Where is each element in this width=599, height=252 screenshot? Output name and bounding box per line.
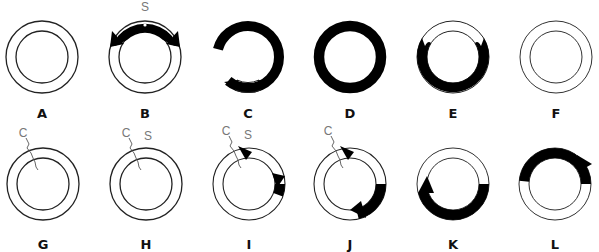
panel-c: C — [217, 26, 279, 121]
filled-arc — [422, 153, 484, 215]
inner-ring — [17, 158, 69, 210]
panel-f: F — [520, 21, 592, 121]
outer-ring — [7, 148, 79, 220]
nick-squiggle-icon — [229, 136, 241, 168]
s-label: S — [144, 129, 152, 143]
inner-ring — [529, 158, 581, 210]
origin-dot — [143, 23, 146, 26]
panel-k: K — [417, 148, 489, 252]
panel-label-l: L — [551, 237, 559, 252]
filled-ring — [319, 26, 381, 88]
c-label: C — [324, 124, 333, 138]
c-label: C — [222, 124, 231, 138]
panel-label-c: C — [243, 106, 253, 121]
arrowhead-icon — [418, 176, 434, 193]
outer-ring — [417, 21, 489, 93]
outer-ring — [6, 21, 78, 93]
s-label: S — [141, 0, 149, 14]
inner-ring — [223, 158, 275, 210]
filled-arc — [218, 153, 280, 215]
s-label: S — [244, 128, 252, 142]
c-label: C — [122, 126, 131, 140]
panel-d: D — [319, 26, 381, 121]
panel-label-e: E — [449, 106, 458, 121]
outer-ring — [110, 148, 182, 220]
ring-diagram: A S B C D E F — [0, 0, 599, 252]
filled-ring — [217, 26, 279, 88]
panel-e: E — [417, 21, 489, 121]
nick-squiggle-icon — [129, 138, 141, 170]
panel-label-i: I — [247, 237, 252, 252]
filled-arc — [319, 153, 381, 215]
panel-label-g: G — [38, 237, 49, 252]
inner-ring — [427, 158, 479, 210]
inner-ring — [324, 158, 376, 210]
outer-ring — [520, 21, 592, 93]
panel-j: C J — [314, 124, 386, 252]
panel-a: A — [6, 21, 78, 121]
panel-label-h: H — [141, 237, 152, 252]
panel-h: C S H — [110, 126, 182, 252]
filled-arc — [417, 38, 489, 92]
nick-squiggle-icon — [26, 138, 38, 170]
filled-arc — [524, 153, 586, 215]
c-label: C — [19, 126, 28, 140]
inner-ring — [16, 31, 68, 83]
panel-label-f: F — [552, 106, 561, 121]
outer-ring — [213, 148, 285, 220]
inner-ring — [427, 31, 479, 83]
panel-label-b: B — [140, 106, 150, 121]
panel-label-j: J — [347, 237, 353, 252]
panel-l: L — [519, 148, 592, 252]
panel-label-d: D — [345, 106, 356, 121]
panel-label-a: A — [37, 106, 47, 121]
panel-g: C G — [7, 126, 79, 252]
panel-b: S B — [109, 0, 181, 121]
inner-ring — [530, 31, 582, 83]
panel-i: C S I — [213, 124, 285, 252]
inner-ring — [120, 158, 172, 210]
panel-label-k: K — [448, 237, 459, 252]
